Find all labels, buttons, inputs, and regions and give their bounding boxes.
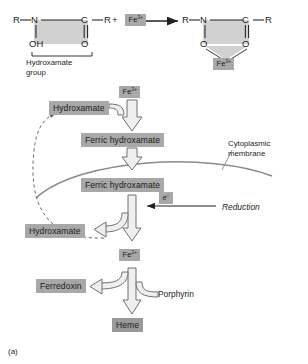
figure-canvas: R N C R OH O + Fe3+ R N C R O O Fe3+ Hyd… — [0, 0, 308, 364]
reduction-label: Reduction — [222, 202, 260, 213]
arrow-iron-binding — [122, 100, 142, 131]
ferric-hydroxamate-inside-box: Ferric hydroxamate — [81, 178, 164, 192]
atom-n: N — [31, 15, 38, 25]
hook-hydroxamate-in — [109, 104, 124, 115]
arrow-uptake — [122, 148, 142, 170]
electron-box: e− — [159, 192, 173, 204]
hydroxamate-secreted-box: Hydroxamate — [49, 101, 109, 115]
porphyrin-label: Porphyrin — [158, 289, 194, 300]
fe3-chelate-box: Fe3+ — [213, 58, 234, 70]
hook-porphyrin — [136, 282, 158, 297]
product-atom-n: N — [200, 15, 207, 25]
product-atom-r-left: R — [182, 15, 189, 25]
ferredoxin-box: Ferredoxin — [36, 279, 86, 293]
plus-sign: + — [112, 15, 118, 25]
atom-r-right: R — [104, 15, 111, 25]
fe2-box: Fe2+ — [119, 249, 140, 261]
caption-line-1: Hydroxamate — [26, 58, 72, 67]
ferric-hydroxamate-outside-box: Ferric hydroxamate — [81, 133, 164, 147]
atom-r-left: R — [13, 15, 20, 25]
product-atom-r-right: R — [265, 15, 272, 25]
hydroxamate-released-box: Hydroxamate — [25, 224, 85, 238]
fe3-reactant-box: Fe3+ — [125, 14, 146, 26]
panel-label: (a) — [8, 347, 18, 356]
caption-line-2: group — [26, 68, 46, 77]
hydroxamate-group-caption: Hydroxamate group — [26, 58, 72, 77]
arrowhead-hydroxamate-out — [94, 222, 106, 237]
atom-o: O — [81, 39, 88, 49]
hook-ferredoxin — [100, 272, 128, 289]
product-atom-o-left: O — [200, 39, 207, 49]
arrowhead-ferredoxin — [90, 279, 102, 294]
atom-c: C — [81, 15, 88, 25]
product-atom-c: C — [242, 15, 249, 25]
heme-box: Heme — [112, 318, 143, 332]
cytoplasmic-membrane-label: Cytoplasmic membrane — [228, 139, 308, 158]
fe3-uptake-box: Fe3+ — [119, 86, 140, 98]
product-atom-o-right: O — [242, 39, 249, 49]
hydroxamate-recycle-arrow — [33, 113, 104, 238]
atom-oh: OH — [29, 39, 43, 49]
